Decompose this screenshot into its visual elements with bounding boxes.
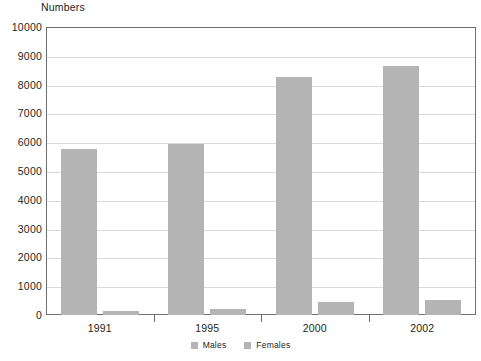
legend-label: Females: [256, 340, 290, 350]
legend-swatch-icon: [191, 342, 198, 349]
y-axis-tick-label: 5000: [18, 165, 42, 177]
gridline: [47, 86, 475, 87]
legend-item-females[interactable]: Females: [244, 340, 290, 350]
y-axis-tick-label: 8000: [18, 79, 42, 91]
legend-label: Males: [203, 340, 227, 350]
legend-swatch-icon: [244, 342, 251, 349]
y-axis-tick-label: 0: [36, 309, 42, 321]
gridline: [47, 57, 475, 58]
y-axis-tick-labels: 0100020003000400050006000700080009000100…: [0, 27, 42, 315]
gridline: [47, 114, 475, 115]
gridline: [47, 258, 475, 259]
y-axis-tick-label: 6000: [18, 136, 42, 148]
y-axis-tick-label: 3000: [18, 223, 42, 235]
bar-chart: Numbers 01000200030004000500060007000800…: [0, 0, 481, 361]
x-axis-tick-label-1995: 1995: [195, 322, 219, 334]
y-axis-tick-label: 7000: [18, 107, 42, 119]
gridline: [47, 287, 475, 288]
gridline: [47, 28, 475, 29]
y-axis-title: Numbers: [41, 1, 85, 13]
legend-item-males[interactable]: Males: [191, 340, 227, 350]
x-axis-tick-labels: 1991199520002002: [46, 322, 476, 338]
gridline: [47, 230, 475, 231]
chart-legend: MalesFemales: [0, 340, 481, 350]
plot-area: [46, 27, 476, 315]
x-axis-tick: [154, 315, 155, 322]
x-axis-ticks: [46, 315, 476, 322]
gridlines: [47, 28, 475, 314]
y-axis-tick-label: 9000: [18, 50, 42, 62]
y-axis-tick-label: 2000: [18, 251, 42, 263]
y-axis-tick-label: 4000: [18, 194, 42, 206]
x-axis-tick-label-2000: 2000: [303, 322, 327, 334]
x-axis-tick: [369, 315, 370, 322]
gridline: [47, 143, 475, 144]
y-axis-tick-label: 1000: [18, 280, 42, 292]
x-axis-tick-label-2002: 2002: [410, 322, 434, 334]
y-axis-tick-label: 10000: [12, 21, 42, 33]
x-axis-tick: [261, 315, 262, 322]
gridline: [47, 201, 475, 202]
x-axis-tick-label-1991: 1991: [88, 322, 112, 334]
gridline: [47, 172, 475, 173]
